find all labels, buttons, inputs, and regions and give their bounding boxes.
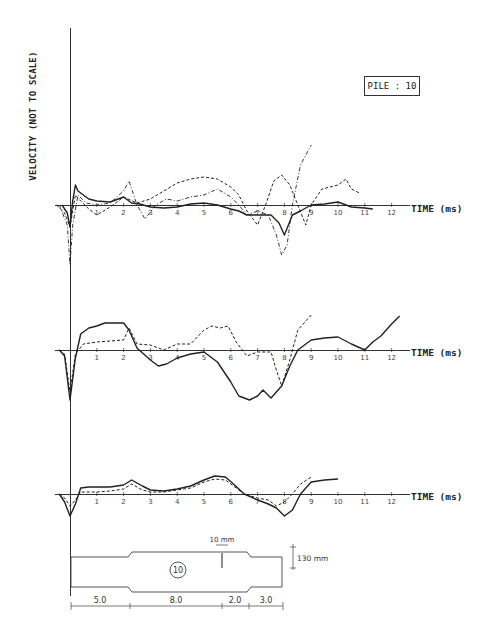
tick-label: 2	[121, 354, 125, 362]
tick-label: 9	[309, 354, 313, 362]
tick-label: 5	[202, 209, 206, 217]
tick-label: 11	[360, 498, 369, 506]
tick-label: 5	[202, 498, 206, 506]
tick-label: 7	[255, 209, 259, 217]
pile-number: 10	[173, 566, 183, 575]
tick-label: 1	[95, 209, 99, 217]
tick-label: 5	[202, 354, 206, 362]
tick-label: 6	[229, 498, 234, 506]
segment-label-4: 3.0	[260, 596, 273, 605]
tick-label: 12	[387, 354, 396, 362]
tick-label: 2	[121, 209, 125, 217]
panel-top: 123456789101112	[55, 145, 410, 265]
segment-label-1: 5.0	[94, 596, 107, 605]
segment-label-2: 8.0	[170, 596, 183, 605]
tick-label: 4	[175, 209, 180, 217]
tick-label: 6	[229, 354, 234, 362]
tick-label: 4	[175, 498, 180, 506]
y-axis-label: VELOCITY (NOT TO SCALE)	[28, 16, 38, 216]
tick-label: 11	[360, 354, 369, 362]
time-axis-label-bottom: TIME (ms)	[411, 491, 462, 502]
y-axis-label-wrap: VELOCITY (NOT TO SCALE)	[28, 16, 42, 216]
tick-label: 9	[309, 498, 313, 506]
tick-label: 10	[334, 354, 343, 362]
series-solid	[59, 476, 338, 516]
tick-label: 2	[121, 498, 125, 506]
tick-label: 1	[95, 498, 99, 506]
pile-title-box: PILE : 10	[364, 76, 420, 96]
series-solid	[62, 185, 373, 235]
time-axis-label-top: TIME (ms)	[411, 203, 462, 214]
tick-label: 3	[148, 498, 152, 506]
tick-label: 3	[148, 209, 152, 217]
diameter-label: 130 mm	[297, 554, 328, 563]
panel-bottom: 123456789101112	[55, 476, 410, 516]
tick-label: 10	[334, 209, 343, 217]
tick-label: 11	[360, 209, 369, 217]
segment-label-3: 2.0	[229, 596, 242, 605]
notch-label: 10 mm	[210, 536, 235, 544]
tick-label: 8	[282, 354, 286, 362]
panel-middle: 123456789101112	[55, 315, 410, 400]
tick-label: 12	[387, 209, 396, 217]
tick-label: 8	[282, 209, 286, 217]
tick-label: 10	[334, 498, 343, 506]
time-axis-label-middle: TIME (ms)	[411, 347, 462, 358]
tick-label: 12	[387, 498, 396, 506]
tick-label: 7	[255, 354, 259, 362]
tick-label: 1	[95, 354, 99, 362]
